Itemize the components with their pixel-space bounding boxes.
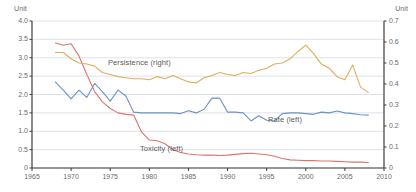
series-line-toxicity (55, 43, 368, 162)
series-annotation-rate: Rate (left) (268, 115, 302, 124)
chart-container: Unit Unit 4.03.53.02.52.01.51.00.50 0.70… (0, 0, 416, 192)
plot-area (0, 0, 416, 192)
series-annotation-toxicity: Toxicity (left) (140, 144, 183, 153)
series-annotation-persistence: Persistence (right) (108, 58, 171, 67)
series-line-persistence (55, 45, 368, 92)
